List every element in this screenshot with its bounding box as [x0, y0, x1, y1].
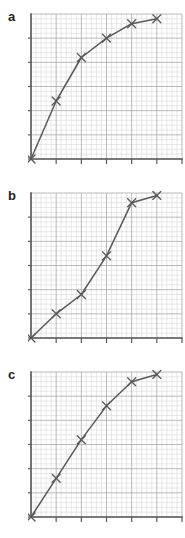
- panel-label-a: a: [8, 10, 15, 23]
- panel-label-b: b: [8, 189, 16, 202]
- chart-panel-b: b: [0, 179, 185, 357]
- chart-svg-b: [28, 191, 185, 351]
- panel-label-c: c: [8, 368, 15, 381]
- chart-svg-c: [28, 370, 185, 530]
- plot-area-c: [28, 370, 185, 530]
- plot-area-b: [28, 191, 185, 351]
- plot-area-a: [28, 12, 185, 172]
- chart-panel-a: a: [0, 0, 185, 178]
- chart-svg-a: [28, 12, 185, 172]
- chart-panel-c: c: [0, 358, 185, 536]
